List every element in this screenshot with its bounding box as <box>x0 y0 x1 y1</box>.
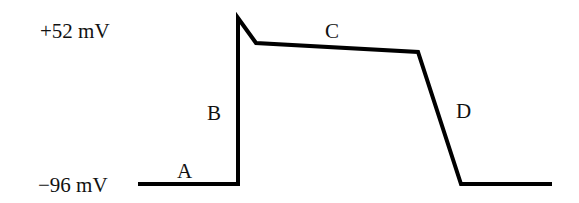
y-label-min: −96 mV <box>38 175 108 196</box>
action-potential-diagram: +52 mV −96 mV A B C D <box>0 0 579 203</box>
phase-label-b: B <box>207 103 221 124</box>
phase-label-d: D <box>456 101 471 122</box>
phase-label-c: C <box>325 21 339 42</box>
membrane-potential-line <box>138 18 552 184</box>
y-label-max: +52 mV <box>40 21 110 42</box>
phase-label-a: A <box>177 161 192 182</box>
